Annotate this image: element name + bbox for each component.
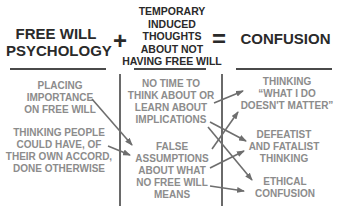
arrow-icon xyxy=(210,186,244,191)
arrow-icon xyxy=(108,146,130,155)
arrow-icon xyxy=(214,91,243,103)
arrows-layer xyxy=(0,0,338,208)
arrow-icon xyxy=(208,127,252,180)
arrow-icon xyxy=(92,99,132,145)
arrow-icon xyxy=(212,112,238,149)
